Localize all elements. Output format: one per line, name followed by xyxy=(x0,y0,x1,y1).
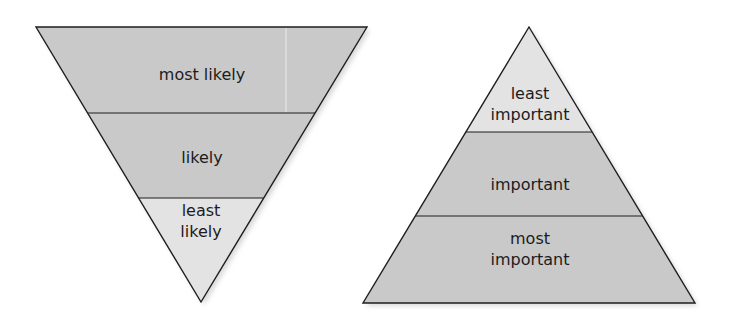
label-least-important: least important xyxy=(490,83,569,125)
label-line-1: least xyxy=(490,83,569,104)
label-important: important xyxy=(490,174,569,195)
label-line-2: important xyxy=(490,104,569,125)
label-line: important xyxy=(490,175,569,194)
label-line-2: likely xyxy=(180,221,221,242)
label-likely: likely xyxy=(181,147,222,168)
label-line: likely xyxy=(181,148,222,167)
label-line-2: important xyxy=(490,249,569,270)
label-line-1: least xyxy=(180,200,221,221)
label-line: most likely xyxy=(159,65,245,84)
label-least-likely: least likely xyxy=(180,200,221,242)
label-line-1: most xyxy=(490,228,569,249)
label-most-likely: most likely xyxy=(159,64,245,85)
pyramids-svg xyxy=(0,0,732,324)
diagram-canvas: most likely likely least likely least im… xyxy=(0,0,732,324)
label-most-important: most important xyxy=(490,228,569,270)
